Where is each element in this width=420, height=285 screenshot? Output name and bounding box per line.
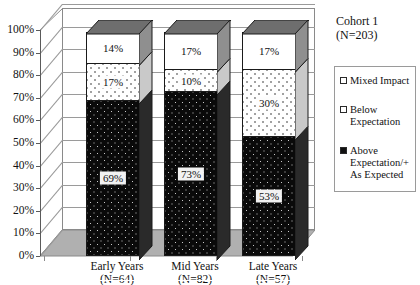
legend-item-label: Above Expectation/+ As Expected: [350, 145, 409, 181]
bar-column[interactable]: 17%10%73%: [164, 33, 218, 256]
y-axis-tick-label: 60%: [13, 115, 34, 127]
x-axis-category-count: (N=64): [90, 273, 143, 285]
y-axis-tick-label: 100%: [7, 24, 34, 36]
bar-segment[interactable]: 17%: [86, 63, 140, 101]
bar-segment[interactable]: 17%: [164, 32, 218, 70]
legend-swatch-mixed: [340, 77, 347, 84]
bar-segment-value: 17%: [178, 45, 204, 58]
y-axis-tick-label: 80%: [13, 69, 34, 81]
plot-area: 0%10%20%30%40%50%60%70%80%90%100% 14%17%…: [40, 8, 315, 258]
y-axis-tick-label: 90%: [13, 47, 34, 59]
x-axis-tick: [130, 256, 131, 261]
bar-segment-value: 73%: [178, 167, 204, 180]
x-axis-tick: [44, 256, 45, 261]
legend-item[interactable]: Above Expectation/+ As Expected: [340, 145, 411, 181]
x-axis-tick: [216, 256, 217, 261]
y-axis-tick-label: 20%: [13, 205, 34, 217]
y-axis-labels: 0%10%20%30%40%50%60%70%80%90%100%: [0, 8, 38, 258]
y-axis-tick-label: 30%: [13, 182, 34, 194]
x-axis-category-label: Early Years(N=64): [90, 260, 143, 285]
bar-column[interactable]: 14%17%69%: [86, 33, 140, 256]
bar-segment[interactable]: 69%: [86, 100, 140, 256]
bar-segment[interactable]: 14%: [86, 32, 140, 64]
bar-segment-value: 30%: [256, 97, 282, 110]
legend-item-label: Mixed Impact: [350, 75, 409, 87]
x-axis-category-name: Late Years: [249, 260, 298, 273]
plot-left-wall: [40, 8, 64, 258]
x-axis-category-name: Early Years: [90, 260, 143, 273]
legend-item[interactable]: Mixed Impact: [340, 75, 411, 87]
y-axis-tick-label: 50%: [13, 137, 34, 149]
cohort-title: Cohort 1 (N=203): [336, 14, 378, 42]
x-axis-labels: Early Years(N=64)Mid Years(N=82)Late Yea…: [40, 256, 315, 282]
chart-legend: Mixed ImpactBelow ExpectationAbove Expec…: [334, 66, 416, 192]
y-axis-tick-label: 70%: [13, 92, 34, 104]
y-axis-line: [40, 30, 41, 256]
bar-segment[interactable]: 17%: [242, 32, 296, 70]
x-axis-category-count: (N=57): [249, 273, 298, 285]
bar-column[interactable]: 17%30%53%: [242, 33, 296, 256]
x-axis-category-label: Mid Years(N=82): [171, 260, 218, 285]
x-axis-tick: [302, 256, 303, 261]
legend-item[interactable]: Below Expectation: [340, 104, 411, 128]
legend-swatch-below: [340, 106, 347, 113]
x-axis-category-name: Mid Years: [171, 260, 218, 273]
bar-segment[interactable]: 30%: [242, 69, 296, 137]
bar-segment-value: 14%: [100, 41, 126, 54]
bar-segment[interactable]: 53%: [242, 136, 296, 256]
legend-swatch-above: [340, 147, 347, 154]
bar-segment-value: 17%: [256, 45, 282, 58]
bar-segment-value: 53%: [256, 190, 282, 203]
x-axis-category-count: (N=82): [171, 273, 218, 285]
bar-segment[interactable]: 10%: [164, 69, 218, 92]
y-axis-tick-label: 10%: [13, 228, 34, 240]
legend-item-label: Below Expectation: [350, 104, 400, 128]
gridline: [62, 4, 315, 5]
x-axis-category-label: Late Years(N=57): [249, 260, 298, 285]
bar-segment-value: 17%: [100, 75, 126, 88]
y-axis-tick-label: 40%: [13, 160, 34, 172]
bar-segment-value: 10%: [178, 74, 204, 87]
bar-segment-value: 69%: [100, 172, 126, 185]
gridline: [62, 27, 315, 28]
bar-segment[interactable]: 73%: [164, 91, 218, 256]
y-axis-tick-label: 0%: [19, 250, 34, 262]
